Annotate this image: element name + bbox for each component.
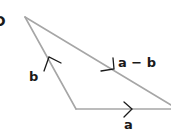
arrow-b-icon <box>44 57 61 71</box>
vector-label-a-minus-b: a − b <box>118 56 156 69</box>
vector-label-a: a <box>124 118 133 131</box>
edge-b <box>25 17 76 109</box>
part-label: D <box>0 14 6 28</box>
vector-label-b: b <box>29 70 38 83</box>
